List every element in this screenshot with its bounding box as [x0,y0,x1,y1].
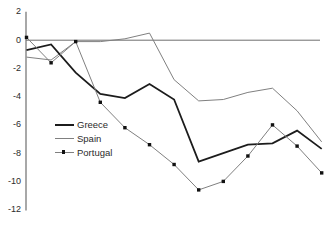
legend-label-portugal: Portugal [77,148,112,158]
series-line-portugal [27,37,322,190]
y-axis-tick-label: -10 [0,176,21,187]
y-axis-tick-label: -4 [0,91,21,102]
data-point-marker-portugal [74,40,77,43]
greece-line-sample-icon [55,120,74,130]
data-point-marker-portugal [246,154,249,157]
spain-line-sample-icon [55,134,74,144]
line-chart: 20-2-4-6-8-10-12 Greece Spain Portugal [0,0,331,225]
data-point-marker-portugal [49,61,52,64]
legend-item-greece: Greece [55,120,112,130]
data-point-marker-portugal [271,123,274,126]
data-point-marker-portugal [197,188,200,191]
data-point-marker-portugal [222,180,225,183]
data-point-marker-portugal [320,171,323,174]
y-axis-tick-label: -6 [0,119,21,130]
y-axis-tick-label: -8 [0,148,21,159]
legend-item-spain: Spain [55,134,112,144]
data-point-marker-portugal [99,101,102,104]
y-axis-tick-label: 2 [0,6,21,17]
y-axis-tick-label: -2 [0,63,21,74]
plot-area [0,0,331,225]
portugal-line-marker-sample-icon [55,148,74,158]
data-point-marker-portugal [172,163,175,166]
data-point-marker-portugal [148,143,151,146]
y-axis-tick-label: 0 [0,35,21,46]
legend-label-greece: Greece [77,120,108,130]
data-point-marker-portugal [25,36,28,39]
data-point-marker-portugal [123,126,126,129]
data-point-marker-portugal [295,144,298,147]
legend-item-portugal: Portugal [55,148,112,158]
y-axis-tick-label: -12 [0,204,21,215]
legend: Greece Spain Portugal [55,120,112,158]
legend-label-spain: Spain [77,134,101,144]
